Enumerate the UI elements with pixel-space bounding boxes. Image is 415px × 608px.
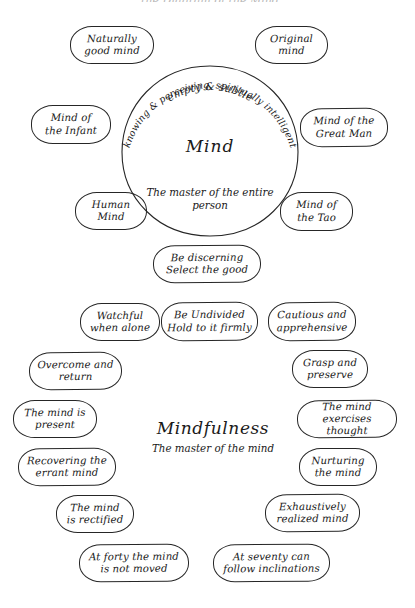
node-line-1: Original [270, 33, 313, 45]
node-line-2: the mind [311, 467, 364, 479]
node-mind-of-the-infant[interactable]: Mind of the Infant [31, 105, 111, 144]
mind-subtitle-line-1: The master of [146, 186, 219, 198]
node-be-undivided-hold-to-it-firmly[interactable]: Be Undivided Hold to it firmly [161, 302, 258, 342]
node-line-2: realized mind [277, 513, 349, 525]
node-line-1: Mind of the [313, 115, 374, 127]
node-exhaustively-realized-mind[interactable]: Exhaustively realized mind [265, 494, 360, 533]
node-line-2: errant mind [27, 467, 107, 480]
node-line-2: Great Man [314, 128, 375, 140]
node-mind-of-the-great-man[interactable]: Mind of the Great Man [300, 108, 388, 148]
node-be-discerning-select-the-good[interactable]: Be discerning Select the good [153, 245, 261, 284]
node-line-1: Be discerning [166, 251, 248, 264]
node-watchful-when-alone[interactable]: Watchful when alone [80, 303, 160, 341]
node-line-2: return [37, 371, 113, 383]
node-line-1: The mind is [24, 407, 86, 419]
node-line-1: Nurturing [311, 455, 364, 467]
node-the-mind-is-rectified[interactable]: The mind is rectified [56, 495, 134, 533]
node-line-2: when alone [90, 322, 150, 334]
node-original-mind[interactable]: Original mind [255, 26, 328, 64]
node-line-1: Exhaustively [276, 500, 348, 512]
node-cautious-and-apprehensive[interactable]: Cautious and apprehensive [268, 302, 356, 342]
node-line-1: Overcome and [37, 358, 113, 370]
node-line-1: The mind [303, 400, 391, 413]
node-recovering-the-errant-mind[interactable]: Recovering the errant mind [18, 448, 116, 487]
node-line-2: mind [270, 45, 313, 57]
node-line-1: Mind of [296, 199, 337, 211]
node-grasp-and-preserve[interactable]: Grasp and preserve [292, 350, 368, 388]
node-line-2: the Tao [296, 212, 337, 224]
node-line-1: Be Undivided [167, 309, 251, 322]
node-overcome-and-return[interactable]: Overcome and return [29, 352, 122, 391]
node-line-1: At forty the mind [89, 550, 179, 563]
node-line-1: Human [92, 199, 130, 211]
node-at-seventy-can-follow-inclinations[interactable]: At seventy can follow inclinations [213, 544, 330, 583]
node-line-2: the Infant [45, 125, 97, 137]
node-line-1: Cautious and [277, 309, 348, 321]
node-line-1: Mind of [45, 112, 97, 124]
node-at-forty-the-mind-is-not-moved[interactable]: At forty the mind is not moved [79, 544, 189, 583]
node-line-2: present [24, 419, 86, 431]
node-line-1: Naturally [84, 33, 140, 45]
mindfulness-center-subtitle: The master of the mind [120, 442, 306, 454]
mind-center-word: Mind [150, 136, 270, 156]
node-the-mind-is-present[interactable]: The mind is present [13, 400, 97, 439]
node-line-2: Hold to it firmly [167, 321, 251, 334]
node-human-mind[interactable]: Human Mind [75, 192, 147, 230]
node-line-2: good mind [84, 45, 140, 57]
node-line-2: preserve [303, 369, 357, 381]
mindfulness-center-word: Mindfulness [128, 418, 298, 438]
mind-diagram: the Diagram of the Mind empty & subtle k… [0, 0, 415, 608]
node-line-1: Recovering the [27, 454, 107, 467]
node-line-1: The mind [67, 502, 124, 514]
node-line-1: Watchful [90, 310, 150, 322]
node-mind-of-the-tao[interactable]: Mind of the Tao [280, 192, 353, 231]
node-line-2: follow inclinations [223, 563, 319, 576]
node-naturally-good-mind[interactable]: Naturally good mind [70, 26, 154, 65]
node-line-2: is rectified [67, 514, 124, 526]
node-line-2: apprehensive [277, 322, 348, 334]
node-line-2: exercises thought [303, 413, 391, 438]
node-nurturing-the-mind[interactable]: Nurturing the mind [299, 448, 377, 486]
node-line-2: is not moved [89, 563, 179, 576]
node-line-1: Grasp and [303, 357, 357, 369]
node-the-mind-exercises-thought[interactable]: The mind exercises thought [297, 400, 397, 439]
mind-center-subtitle: The master of the entire person [140, 186, 280, 212]
node-line-1: At seventy can [223, 550, 319, 563]
node-line-2: Select the good [166, 264, 248, 277]
node-line-2: Mind [92, 211, 130, 223]
